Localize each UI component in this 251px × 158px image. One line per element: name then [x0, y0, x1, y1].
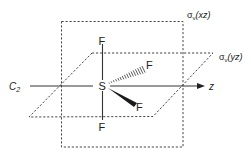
- c2-subscript: 2: [15, 86, 20, 93]
- atom-f-equatorial-back: F: [146, 59, 153, 71]
- c2-axis-label: C2: [9, 81, 20, 93]
- bond-hashed-wedge: [109, 66, 145, 84]
- atom-s: S: [99, 80, 106, 92]
- sf4-symmetry-diagram: S F F F F C2 z σv(xz) σv(yz): [0, 0, 251, 158]
- atom-f-axial-bottom: F: [99, 121, 106, 133]
- atom-f-axial-top: F: [99, 35, 106, 47]
- sigma-xz-paren: (xz): [196, 10, 211, 20]
- sigma-v-yz-label: σv(yz): [219, 52, 243, 63]
- sigma-v-xz-label: σv(xz): [187, 10, 211, 21]
- sigma-v-yz-plane: [29, 53, 213, 117]
- bond-solid-wedge: [108, 88, 137, 107]
- z-axis-arrow-icon: [197, 83, 205, 89]
- sigma-v-xz-plane: [62, 22, 184, 148]
- atom-f-equatorial-front: F: [136, 101, 143, 113]
- z-axis-label: z: [208, 81, 214, 92]
- sigma-yz-paren: (yz): [228, 52, 243, 62]
